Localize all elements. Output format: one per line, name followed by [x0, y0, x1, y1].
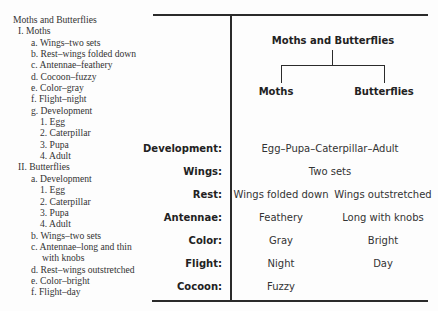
- outline-item: 2. Caterpillar: [13, 127, 136, 138]
- outline-title: Moths and Butterflies: [13, 14, 136, 25]
- moths-value: Night: [268, 258, 295, 269]
- moths-value: Fuzzy: [267, 281, 295, 292]
- outline-item: 4. Adult: [13, 150, 136, 161]
- row-label: Flight:: [185, 258, 222, 269]
- outline-item: b. Rest–wings folded down: [13, 48, 136, 59]
- tree-right-branch: [384, 65, 385, 83]
- row-label: Color:: [189, 235, 222, 246]
- row-label: Cocoon:: [177, 281, 222, 292]
- top-rule: [153, 14, 428, 16]
- moths-value: Gray: [269, 235, 293, 246]
- butterflies-value: Day: [373, 258, 393, 269]
- outline-item: c. Antennae–feathery: [13, 59, 136, 70]
- butterflies-value: Wings outstretched: [334, 189, 431, 200]
- outline-item: 4. Adult: [13, 218, 136, 229]
- row-label: Development:: [143, 143, 222, 154]
- outline-item: II. Butterflies: [13, 161, 136, 172]
- outline-item: f. Flight–day: [13, 286, 136, 297]
- outline-item: a. Development: [13, 173, 136, 184]
- moths-value: Feathery: [259, 212, 303, 223]
- outline-item: g. Development: [13, 105, 136, 116]
- moths-value: Wings folded down: [234, 189, 329, 200]
- shared-value: Egg–Pupa–Caterpillar–Adult: [262, 143, 399, 154]
- outline-item: f. Flight–night: [13, 93, 136, 104]
- tree-root: Moths and Butterflies: [272, 35, 394, 46]
- outline-item: c. Antennae–long and thin: [13, 241, 136, 252]
- outline-item: d. Rest–wings outstretched: [13, 264, 136, 275]
- tree-left-branch: [281, 65, 282, 83]
- butterflies-value: Bright: [368, 235, 398, 246]
- outline: Moths and Butterflies I. Mothsa. Wings–t…: [13, 14, 136, 298]
- tree-bar: [281, 65, 385, 66]
- column-divider: [230, 15, 232, 301]
- row-label: Wings:: [183, 166, 222, 177]
- tree-right-label: Butterflies: [354, 86, 414, 97]
- outline-item: with knobs: [13, 252, 136, 263]
- outline-item: 2. Caterpillar: [13, 196, 136, 207]
- outline-item: b. Wings–two sets: [13, 230, 136, 241]
- bottom-rule: [152, 300, 428, 302]
- outline-item: 3. Pupa: [13, 207, 136, 218]
- tree-stem: [332, 50, 333, 66]
- outline-item: 3. Pupa: [13, 139, 136, 150]
- outline-item: e. Color–bright: [13, 275, 136, 286]
- outline-item: 1. Egg: [13, 116, 136, 127]
- outline-item: I. Moths: [13, 25, 136, 36]
- tree-left-label: Moths: [259, 86, 294, 97]
- outline-item: e. Color–gray: [13, 82, 136, 93]
- outline-item: 1. Egg: [13, 184, 136, 195]
- row-label: Antennae:: [164, 212, 222, 223]
- butterflies-value: Long with knobs: [342, 212, 424, 223]
- shared-value: Two sets: [309, 166, 351, 177]
- row-label: Rest:: [193, 189, 222, 200]
- outline-item: a. Wings–two sets: [13, 37, 136, 48]
- outline-item: d. Cocoon–fuzzy: [13, 71, 136, 82]
